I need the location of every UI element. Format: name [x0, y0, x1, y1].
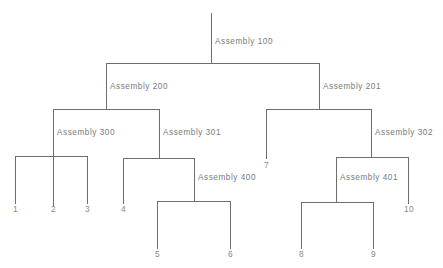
node-label-assembly-401: Assembly 401 — [340, 174, 398, 182]
node-label-assembly-201: Assembly 201 — [323, 83, 381, 91]
assembly-tree-diagram: Assembly 100 Assembly 200 Assembly 201 A… — [0, 0, 443, 268]
node-label-assembly-302: Assembly 302 — [375, 129, 433, 137]
leaf-label-3: 3 — [85, 205, 90, 213]
node-label-assembly-200: Assembly 200 — [110, 83, 168, 91]
leaf-label-9: 9 — [371, 250, 376, 258]
leaf-label-10: 10 — [404, 205, 414, 213]
node-label-assembly-301: Assembly 301 — [163, 129, 221, 137]
leaf-label-4: 4 — [121, 205, 126, 213]
leaf-label-7: 7 — [264, 161, 269, 169]
leaf-label-5: 5 — [155, 250, 160, 258]
leaf-label-8: 8 — [299, 250, 304, 258]
leaf-label-6: 6 — [228, 250, 233, 258]
node-label-assembly-400: Assembly 400 — [198, 174, 256, 182]
node-label-assembly-100: Assembly 100 — [215, 38, 273, 46]
node-label-assembly-300: Assembly 300 — [57, 129, 115, 137]
leaf-label-2: 2 — [51, 205, 56, 213]
leaf-label-1: 1 — [13, 205, 18, 213]
